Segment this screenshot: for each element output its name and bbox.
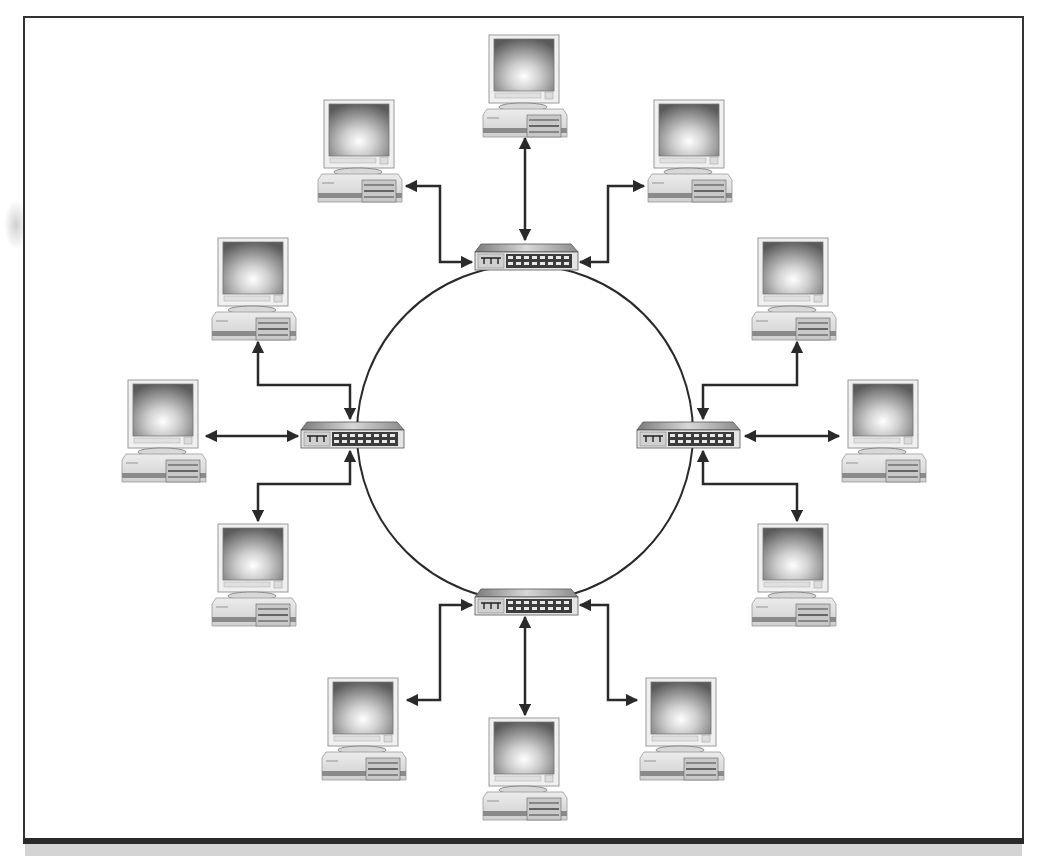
pc-top-center-computer-icon xyxy=(483,35,567,137)
link-right-lower xyxy=(703,451,797,521)
link-bottom-left xyxy=(407,605,472,700)
switch-bottom-icon xyxy=(475,589,578,615)
switch-left-icon xyxy=(301,422,404,448)
pc-left-upper-computer-icon xyxy=(212,238,296,340)
pc-right-upper-computer-icon xyxy=(752,238,836,340)
switch-top-icon xyxy=(475,244,578,270)
pc-top-left-computer-icon xyxy=(318,100,402,202)
pc-bottom-center-computer-icon xyxy=(483,718,567,820)
links-layer xyxy=(206,138,839,715)
pc-right-middle-computer-icon xyxy=(842,380,926,482)
switch-right-icon xyxy=(637,422,740,448)
pc-left-middle-computer-icon xyxy=(122,380,206,482)
pc-bottom-left-computer-icon xyxy=(322,678,406,780)
link-left-lower xyxy=(258,451,350,521)
pc-right-lower-computer-icon xyxy=(752,524,836,626)
pc-left-lower-computer-icon xyxy=(212,524,296,626)
pc-top-right-computer-icon xyxy=(648,100,732,202)
diagram-canvas xyxy=(0,0,1038,856)
link-right-upper xyxy=(703,342,797,419)
network-diagram xyxy=(0,0,1038,856)
link-top-left xyxy=(406,186,472,262)
link-left-upper xyxy=(258,342,350,419)
link-bottom-right xyxy=(580,605,637,700)
pc-bottom-right-computer-icon xyxy=(640,678,724,780)
switches-layer xyxy=(301,244,740,615)
link-top-right xyxy=(580,186,644,262)
